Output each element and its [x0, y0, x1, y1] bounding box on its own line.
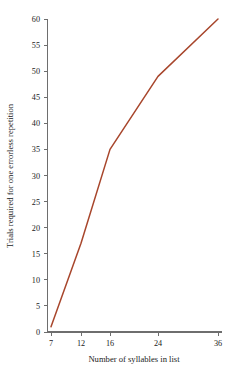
x-tick-label-36: 36	[214, 339, 222, 348]
y-tick-label-20: 20	[32, 224, 40, 233]
y-tick-label-30: 30	[32, 172, 40, 181]
y-tick-label-25: 25	[32, 198, 40, 207]
x-tick-label-12: 12	[77, 339, 85, 348]
y-axis-title: Trials required for one errorless repeti…	[5, 103, 15, 248]
y-tick-label-45: 45	[32, 93, 40, 102]
y-tick-label-10: 10	[32, 276, 40, 285]
x-tick-label-16: 16	[106, 339, 114, 348]
y-tick-label-40: 40	[32, 119, 40, 128]
chart-background	[0, 0, 237, 377]
y-tick-label-55: 55	[32, 41, 40, 50]
y-tick-label-50: 50	[32, 67, 40, 76]
y-tick-label-35: 35	[32, 145, 40, 154]
line-chart: 0 5 10 15 20 25 30 35 40 45 50 55	[0, 0, 237, 377]
x-axis-title: Number of syllables in list	[88, 354, 180, 364]
y-tick-label-5: 5	[36, 302, 40, 311]
y-tick-label-15: 15	[32, 250, 40, 259]
y-tick-label-0: 0	[36, 328, 40, 337]
x-tick-label-7: 7	[49, 339, 53, 348]
chart-figure: 0 5 10 15 20 25 30 35 40 45 50 55	[0, 0, 237, 377]
y-tick-label-60: 60	[32, 15, 40, 24]
x-tick-label-24: 24	[154, 339, 162, 348]
